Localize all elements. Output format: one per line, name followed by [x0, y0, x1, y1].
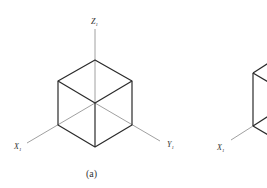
cube-b	[253, 62, 267, 136]
y-axis	[95, 103, 160, 141]
isometric-cube-diagram: Z1 X1 Y1 (a) X1	[0, 0, 267, 188]
x-axis	[27, 103, 95, 143]
z-axis-label: Z1	[91, 17, 98, 27]
x-axis-label-b: X1	[216, 143, 224, 153]
x-axis-b	[231, 126, 253, 140]
figure-a-caption: (a)	[86, 168, 97, 180]
y-axis-label: Y1	[167, 140, 174, 150]
figure-a: Z1 X1 Y1 (a)	[13, 17, 174, 180]
figure-b: X1	[216, 62, 267, 153]
x-axis-label: X1	[13, 142, 21, 152]
